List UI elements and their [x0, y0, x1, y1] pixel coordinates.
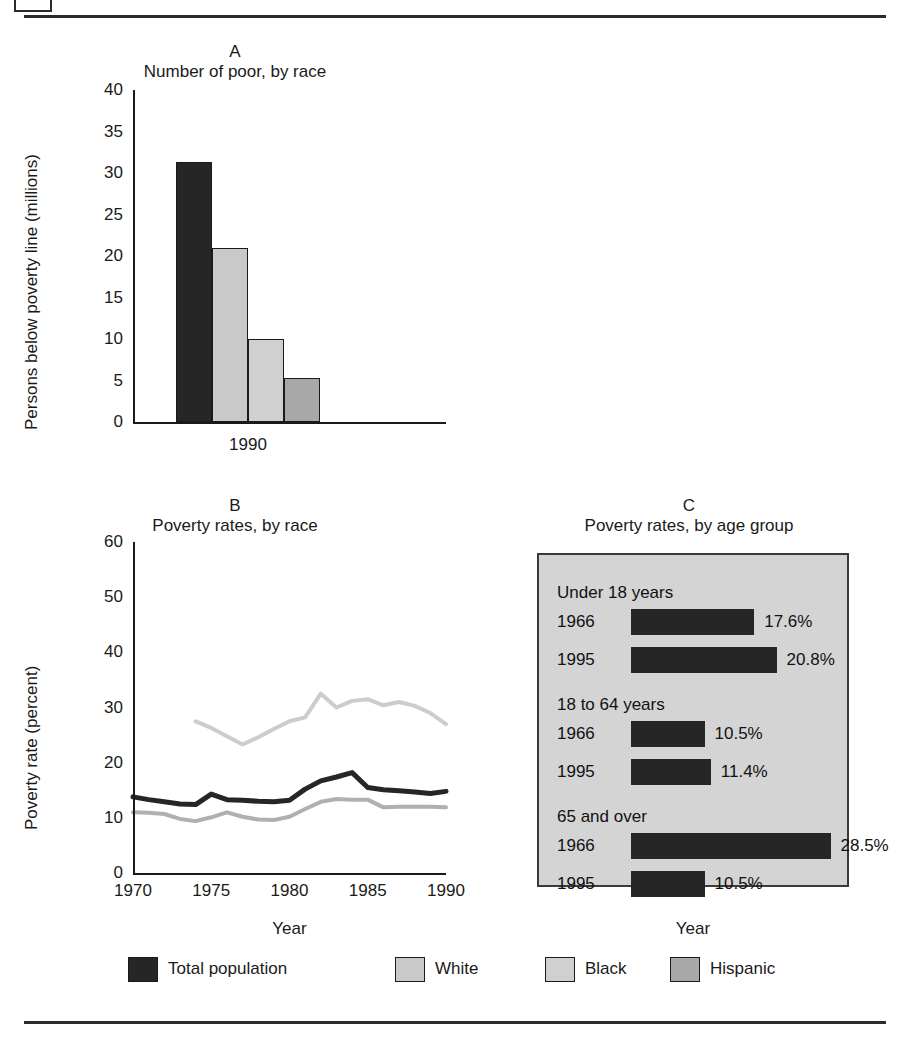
panel-b-x-tick: 1975	[176, 882, 246, 899]
panel-c-bar-year: 1966	[557, 612, 595, 632]
panel-a-y-tick: 40	[78, 81, 123, 98]
panel-c-letter: C	[470, 496, 908, 516]
legend-label: Total population	[168, 959, 287, 979]
panel-a-y-tick: 30	[78, 164, 123, 181]
panel-a-bar-black	[248, 339, 284, 422]
panel-c-title: Poverty rates, by age group	[470, 516, 908, 536]
legend-label: White	[435, 959, 478, 979]
panel-c-x-axis-label: Year	[537, 919, 849, 939]
panel-a-title: Number of poor, by race	[0, 62, 470, 82]
legend-label: Hispanic	[710, 959, 775, 979]
panel-c-group-label: 65 and over	[557, 807, 647, 827]
figure-page: A Number of poor, by race Persons below …	[0, 0, 908, 1050]
bottom-rule	[24, 1021, 886, 1024]
panel-c-plot-box: Under 18 years196617.6%199520.8%18 to 64…	[537, 553, 849, 887]
panel-c-bar	[631, 833, 831, 859]
panel-c-bar-value: 11.4%	[721, 762, 768, 782]
panel-a-bar-white	[212, 248, 248, 422]
panel-b-lines	[0, 470, 470, 940]
panel-c-bar	[631, 759, 711, 785]
panel-c-bar	[631, 721, 705, 747]
panel-c-bar-value: 17.6%	[764, 612, 812, 632]
panel-c-bar	[631, 871, 705, 897]
panel-c-bar-year: 1995	[557, 650, 595, 670]
panel-a-chart: A Number of poor, by race Persons below …	[0, 0, 470, 470]
panel-c-bar-value: 28.5%	[841, 836, 889, 856]
panel-a-bar-hispanic	[284, 378, 320, 422]
panel-a-y-tick: 5	[78, 372, 123, 389]
panel-a-y-tick: 25	[78, 206, 123, 223]
panel-a-letter: A	[0, 42, 470, 62]
panel-c-bar-value: 20.8%	[787, 650, 835, 670]
panel-b-chart: B Poverty rates, by race Poverty rate (p…	[0, 470, 470, 940]
panel-c-bar-year: 1995	[557, 874, 595, 894]
figure-legend: Total populationWhiteBlackHispanic	[0, 955, 908, 991]
panel-a-y-axis-line	[133, 90, 135, 423]
panel-c-bar	[631, 609, 754, 635]
panel-c-group-label: Under 18 years	[557, 583, 673, 603]
panel-a-y-axis-label: Persons below poverty line (millions)	[22, 154, 42, 430]
panel-b-x-axis-label: Year	[133, 919, 446, 939]
panel-a-y-tick: 20	[78, 247, 123, 264]
panel-b-line-black	[196, 694, 446, 745]
panel-a-y-tick: 15	[78, 289, 123, 306]
panel-a-x-axis-line	[133, 422, 446, 424]
legend-swatch-black	[545, 957, 575, 982]
panel-c-bar	[631, 647, 777, 673]
legend-label: Black	[585, 959, 627, 979]
panel-c-bar-value: 10.5%	[715, 874, 763, 894]
panel-a-y-tick: 35	[78, 123, 123, 140]
panel-b-y-axis-line	[133, 542, 135, 874]
panel-c-bar-value: 10.5%	[715, 724, 763, 744]
panel-b-x-tick: 1970	[98, 882, 168, 899]
panel-c-bar-year: 1995	[557, 762, 595, 782]
panel-a-x-tick: 1990	[176, 436, 320, 453]
panel-b-x-tick: 1980	[255, 882, 325, 899]
panel-c-chart: C Poverty rates, by age group Under 18 y…	[470, 470, 908, 940]
panel-a-y-tick: 10	[78, 330, 123, 347]
panel-b-x-axis-line	[133, 873, 446, 875]
panel-a-y-tick: 0	[78, 413, 123, 430]
panel-c-bar-year: 1966	[557, 836, 595, 856]
legend-swatch-hispanic	[670, 957, 700, 982]
panel-b-x-tick: 1985	[333, 882, 403, 899]
panel-c-bar-year: 1966	[557, 724, 595, 744]
panel-b-line-total-population	[133, 773, 446, 805]
legend-swatch-white	[395, 957, 425, 982]
panel-a-bar-total-population	[176, 162, 212, 422]
panel-c-group-label: 18 to 64 years	[557, 695, 665, 715]
legend-swatch-total-population	[128, 957, 158, 982]
